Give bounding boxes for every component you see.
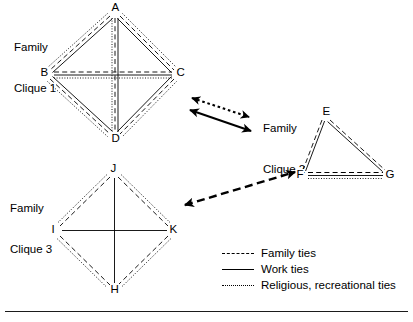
edge-B-C xyxy=(54,72,172,78)
node-label-F: F xyxy=(296,169,304,181)
clique3-label-line2: Clique 3 xyxy=(10,243,52,257)
clique2-edges xyxy=(303,120,385,179)
clique1-edges xyxy=(48,14,177,137)
legend-item-family-ties: Family ties xyxy=(222,245,412,261)
legend-label-religious-ties: Religious, recreational ties xyxy=(261,279,396,291)
legend-item-work-ties: Work ties xyxy=(222,261,412,277)
dotted-line-icon xyxy=(222,280,254,290)
clique2-label: Family Clique 2 xyxy=(263,95,305,203)
node-label-E: E xyxy=(322,106,331,118)
solid-line-icon xyxy=(222,264,254,274)
node-label-J: J xyxy=(110,163,117,175)
clique2-label-line1: Family xyxy=(263,122,305,136)
edge-B-D xyxy=(48,77,113,137)
edge-J-I xyxy=(57,175,110,227)
legend-label-work-ties: Work ties xyxy=(261,263,309,275)
edge-A-B xyxy=(48,14,113,73)
node-label-C: C xyxy=(176,67,185,79)
edge-E-G xyxy=(328,120,385,172)
edge-A-C xyxy=(118,14,177,73)
clique1-label-line1: Family xyxy=(14,41,56,55)
node-label-A: A xyxy=(111,2,120,14)
clique1-label: Family Clique 1 xyxy=(14,14,56,122)
clique1-label-line2: Clique 1 xyxy=(14,82,56,96)
network-diagram-figure: Family Clique 1 Family Clique 2 Family C… xyxy=(0,0,413,322)
legend: Family ties Work ties Religious, recreat… xyxy=(222,245,412,293)
edge-K-H xyxy=(118,236,171,288)
node-label-K: K xyxy=(169,224,178,236)
edge-I-H xyxy=(57,236,110,288)
edge-F-G xyxy=(308,173,383,179)
bottom-divider xyxy=(5,311,408,312)
clique3-label-line1: Family xyxy=(10,202,52,216)
edge-E-F xyxy=(303,120,325,171)
edge-C-D xyxy=(118,77,177,137)
edge-J-K xyxy=(118,175,171,227)
legend-label-family-ties: Family ties xyxy=(261,247,316,259)
node-label-H: H xyxy=(110,284,119,296)
clique3-edges xyxy=(57,175,171,288)
legend-item-religious-ties: Religious, recreational ties xyxy=(222,277,412,293)
node-label-I: I xyxy=(51,224,55,236)
node-label-B: B xyxy=(40,67,49,79)
dashed-line-icon xyxy=(222,248,254,258)
clique3-label: Family Clique 3 xyxy=(10,175,52,283)
node-label-G: G xyxy=(385,169,395,181)
node-label-D: D xyxy=(111,133,120,145)
inter-link-c1-c2-work xyxy=(190,110,251,131)
